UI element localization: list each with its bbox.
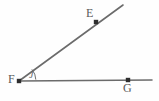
point-marker-f xyxy=(17,79,21,83)
point-marker-e xyxy=(94,20,98,24)
ray-fg-line xyxy=(19,80,152,81)
angle-label: J xyxy=(29,70,33,80)
point-label-e: E xyxy=(86,7,93,19)
ray-fe-line xyxy=(19,5,123,81)
point-label-f: F xyxy=(8,73,15,85)
geometry-canvas xyxy=(0,0,159,101)
point-label-g: G xyxy=(123,82,132,94)
geometry-diagram: E F G J xyxy=(0,0,159,101)
